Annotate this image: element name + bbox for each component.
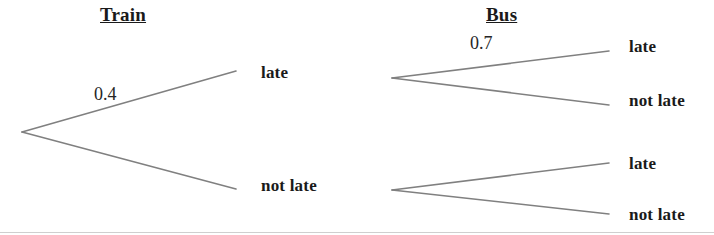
probability-train-late: 0.4: [94, 85, 117, 103]
outcome-bus-upper-late: late: [629, 38, 656, 55]
branch-bus-upper-late: [392, 51, 609, 78]
branch-train-not-late: [22, 132, 236, 189]
branch-bus-lower-not-late: [392, 190, 609, 214]
branch-bus-lower-late: [392, 163, 609, 190]
outcome-train-not-late: not late: [261, 177, 317, 194]
probability-bus-upper-late: 0.7: [470, 34, 493, 52]
bottom-divider: [0, 232, 714, 233]
outcome-bus-lower-late: late: [629, 155, 656, 172]
outcome-bus-upper-not-late: not late: [629, 92, 685, 109]
outcome-train-late: late: [261, 64, 288, 81]
stage-heading-train: Train: [100, 5, 146, 24]
stage-heading-bus: Bus: [486, 5, 517, 24]
outcome-bus-lower-not-late: not late: [629, 206, 685, 223]
probability-tree-diagram: Train Bus 0.4 0.7 late not late late not…: [0, 0, 714, 235]
tree-branches-svg: [0, 0, 714, 235]
branch-bus-upper-not-late: [392, 78, 609, 105]
branch-train-late: [22, 71, 236, 132]
